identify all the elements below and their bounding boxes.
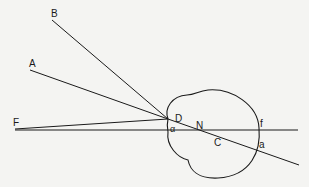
ray-f [15, 119, 168, 129]
ray-a [30, 70, 168, 119]
ray-through-n [168, 119, 299, 165]
label-n: N [196, 121, 203, 131]
label-b: B [51, 9, 58, 19]
label-alpha: α [170, 125, 175, 134]
diagram-drawing [0, 0, 309, 187]
eye-outline [167, 90, 259, 178]
label-c: C [214, 138, 221, 148]
label-f-lower: f [260, 119, 263, 129]
label-a: A [29, 59, 36, 69]
optics-diagram: B A F D α N C f a [0, 0, 309, 187]
ray-b [52, 20, 168, 119]
label-f-point: F [13, 118, 19, 128]
label-d: D [175, 114, 182, 124]
label-a-lower: a [259, 140, 265, 150]
